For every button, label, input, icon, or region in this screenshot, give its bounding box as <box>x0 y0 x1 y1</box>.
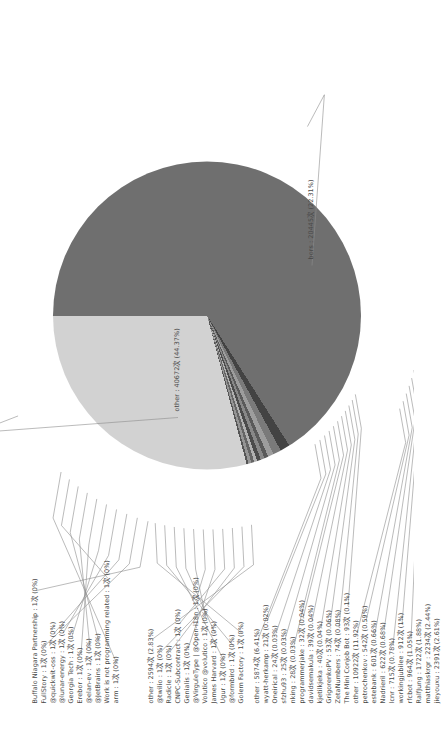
slice-label-left-9: @formbird : 1次 (0%) <box>229 634 235 703</box>
slice-label-top-8: Work is not programming related : 1次 (0%… <box>104 560 110 703</box>
slice-label-left-6: Volutico @volutico : 1次 (0%) <box>202 608 208 703</box>
slice-label-top-5: Erebor : 1次 (0%) <box>77 647 83 703</box>
slice-label-left-3: CNPC-Subcontract : 1次 (0%) <box>175 608 181 703</box>
slice-label-bottom-17: rfcbot : 964次 (1.05%) <box>407 630 413 703</box>
slice-label-left-4: Genialis : 1次 (0%) <box>184 642 190 703</box>
slice-label-bottom-14: Nadrieril : 622次 (0.68%) <box>380 622 386 703</box>
slice-label-bottom-8: GrigorenkoPV : 53次 (0.06%) <box>326 609 332 703</box>
slice-label-left-2: Radicle : 1次 (0%) <box>166 645 172 703</box>
slice-label-bottom-18: RalfJung : 1722次 (1.88%) <box>416 619 422 703</box>
slice-label-top-1: FullStory : 1次 (0%) <box>41 640 47 703</box>
slice-label-left-5: @VirguleType | @Open-i18n : 1次 (0%) <box>193 577 199 703</box>
slice-label-bottom-10: The Mini Conjob Bot : 93次 (0.1%) <box>344 592 350 703</box>
slice-label-top-6: @elan-ev : 1次 (0%) <box>86 638 92 703</box>
slice-label-top-4: Georgia Tech : 1次 (0%) <box>68 626 74 703</box>
slice-label-bottom-7: kjetilkjeka : 40次 (0.04%) <box>317 620 323 703</box>
slice-label-top-3: @lunar-energy : 1次 (0%) <box>59 620 65 703</box>
slice-label-top-0: Buffalo Niagara Partnership : 1次 (0%) <box>32 578 38 703</box>
slice-label-left-8: Ugur : 1次 (0%) <box>220 653 226 703</box>
slice-label-bottom-3: sfzhu93 : 25次 (0.03%) <box>281 628 287 703</box>
slice-label-bottom-1: wyatt-herkamp : 21次 (0.02%) <box>263 604 269 703</box>
slice-label-bottom-5: programmerjake : 32次 (0.04%) <box>299 599 305 703</box>
slice-label-bottom-20: jieyouxu : 2391次 (2.61%) <box>434 618 440 703</box>
slice-label-right-0: bors : 20445次 (22.31%) <box>308 179 314 259</box>
slice-label-left-7: James Harvard : 1次 (0%) <box>211 620 217 703</box>
slice-label-bottom-19: matthiaskrgr : 2234次 (2.44%) <box>425 603 431 703</box>
slice-label-other-outer: other : 40672次 (44.37%) <box>174 328 180 411</box>
slice-label-bottom-13: estebank : 601次 (0.66%) <box>371 620 377 703</box>
slice-label-bottom-15: lcnr : 715次 (0.78%) <box>389 637 395 703</box>
slice-label-bottom-0: other : 5874次 (6.41%) <box>254 628 260 703</box>
slice-label-top-2: @quickwit-oss : 1次 (0%) <box>50 621 56 703</box>
slice-label-bottom-4: nking : 28次 (0.03%) <box>290 636 296 703</box>
slice-label-bottom-6: davidsemakula : 39次 (0.04%) <box>308 604 314 703</box>
slice-label-bottom-11: other : 10922次 (11.92%) <box>353 620 359 703</box>
slice-label-top-7: @JetBrains : 1次 (0%) <box>95 633 101 703</box>
slice-label-left-0: other : 2594次 (2.83%) <box>148 628 154 703</box>
slice-label-bottom-12: petrochenkov : 542次 (0.59%) <box>362 605 368 703</box>
slice-label-top-9: arm : 1次 (0%) <box>113 656 119 703</box>
slice-label-bottom-2: Oneirical : 24次 (0.03%) <box>272 625 278 703</box>
slice-label-left-10: Golem Factory : 1次 (0%) <box>238 621 244 703</box>
slice-label-bottom-16: workingjubilee : 912次 (1%) <box>398 612 404 703</box>
slice-label-left-1: @twilio : 1次 (0%) <box>157 645 163 704</box>
slice-label-bottom-9: ZetaNumbers : 74次 (0.08%) <box>335 609 341 703</box>
